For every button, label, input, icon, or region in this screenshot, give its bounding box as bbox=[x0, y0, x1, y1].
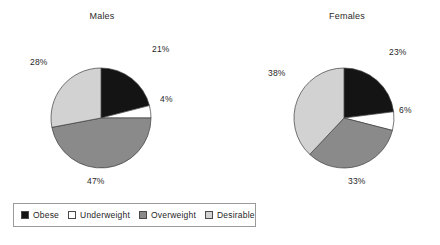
pie-slice-overweight[interactable] bbox=[52, 118, 151, 168]
pie-males-label-underweight: 4% bbox=[160, 94, 173, 104]
pie-males-label-obese: 21% bbox=[152, 44, 170, 54]
legend-swatch-desirable bbox=[205, 211, 213, 219]
pie-females-label-desirable: 38% bbox=[268, 68, 286, 78]
pie-title-females: Females bbox=[307, 11, 387, 21]
legend: Obese Underweight Overweight Desirable bbox=[13, 203, 256, 227]
pie-males-label-desirable: 28% bbox=[30, 57, 48, 67]
legend-label-desirable: Desirable bbox=[217, 210, 255, 220]
pie-males bbox=[50, 67, 152, 169]
legend-item-overweight[interactable]: Overweight bbox=[139, 210, 196, 220]
pie-females-label-overweight: 33% bbox=[348, 176, 366, 186]
legend-label-obese: Obese bbox=[33, 210, 59, 220]
pie-females-label-underweight: 6% bbox=[399, 105, 412, 115]
pie-females bbox=[293, 67, 395, 169]
pie-females-label-obese: 23% bbox=[389, 47, 407, 57]
legend-item-obese[interactable]: Obese bbox=[21, 210, 59, 220]
legend-item-underweight[interactable]: Underweight bbox=[68, 210, 130, 220]
pie-males-label-overweight: 47% bbox=[87, 176, 105, 186]
legend-swatch-overweight bbox=[139, 211, 147, 219]
pie-title-males: Males bbox=[62, 11, 142, 21]
legend-label-underweight: Underweight bbox=[80, 210, 130, 220]
pie-slice-desirable[interactable] bbox=[51, 68, 101, 127]
legend-label-overweight: Overweight bbox=[151, 210, 196, 220]
pie-slice-obese[interactable] bbox=[344, 68, 394, 118]
legend-item-desirable[interactable]: Desirable bbox=[205, 210, 255, 220]
pie-chart-figure: Males 21% 4% 47% 28% Females 23% 6% 33% … bbox=[0, 0, 440, 245]
legend-swatch-obese bbox=[21, 211, 29, 219]
legend-swatch-underweight bbox=[68, 211, 76, 219]
